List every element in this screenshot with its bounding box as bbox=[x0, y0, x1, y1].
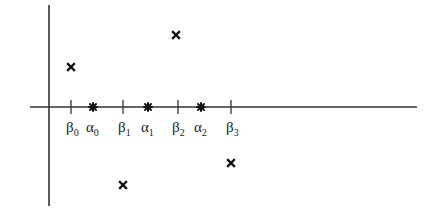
label-alpha-0: α0 bbox=[86, 119, 99, 138]
cross-point-2 bbox=[173, 32, 179, 38]
star-alpha-2 bbox=[197, 103, 205, 111]
cross-point-1 bbox=[68, 64, 74, 70]
diagram-canvas: β0 α0 β1 α1 β2 α2 β3 bbox=[0, 0, 442, 214]
label-beta-3: β3 bbox=[226, 119, 239, 138]
cross-point-4 bbox=[228, 160, 234, 166]
label-beta-0: β0 bbox=[66, 119, 79, 138]
axis-labels: β0 α0 β1 α1 β2 α2 β3 bbox=[66, 119, 239, 138]
label-beta-1: β1 bbox=[118, 119, 131, 138]
label-beta-2: β2 bbox=[172, 119, 185, 138]
label-alpha-2: α2 bbox=[194, 119, 207, 138]
cross-point-3 bbox=[120, 182, 126, 188]
label-alpha-1: α1 bbox=[141, 119, 154, 138]
star-alpha-0 bbox=[89, 103, 97, 111]
star-alpha-1 bbox=[144, 103, 152, 111]
